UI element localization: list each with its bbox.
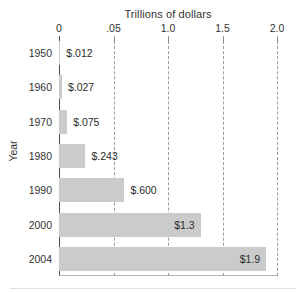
y-tick-label-1950: 1950 xyxy=(8,47,52,59)
y-tick-label-1960: 1960 xyxy=(8,81,52,93)
x-tick-label-0: 0 xyxy=(44,22,74,34)
x-tick-label-3: 1.5 xyxy=(208,22,238,34)
bar-value-label-1990: $.600 xyxy=(130,184,156,196)
bar-row: $.0121950 xyxy=(59,41,277,65)
bar-value-label-1960: $.027 xyxy=(68,81,94,93)
y-tick-label-1980: 1980 xyxy=(8,150,52,162)
y-tick-label-1990: 1990 xyxy=(8,184,52,196)
bar-1970[interactable] xyxy=(59,110,67,134)
bar-1950[interactable] xyxy=(59,41,60,65)
chart-title: Trillions of dollars xyxy=(59,8,277,20)
bar-1980[interactable] xyxy=(59,144,85,168)
gridline-2.0 xyxy=(277,36,278,276)
bar-1990[interactable] xyxy=(59,178,124,202)
bar-value-label-1970: $.075 xyxy=(73,116,99,128)
y-tick-label-1970: 1970 xyxy=(8,116,52,128)
bar-value-label-2000: $1.3 xyxy=(174,219,194,231)
y-tick-label-2000: 2000 xyxy=(8,219,52,231)
bar-row: $1.92004 xyxy=(59,247,277,271)
bar-value-label-2004: $1.9 xyxy=(240,253,260,265)
bottom-divider xyxy=(10,288,296,289)
x-tick-label-1: .05 xyxy=(99,22,129,34)
bar-row: $.2431980 xyxy=(59,144,277,168)
bar-row: $.6001990 xyxy=(59,178,277,202)
plot-area: $.0121950$.0271960$.0751970$.2431980$.60… xyxy=(59,36,277,276)
x-tick-label-4: 2.0 xyxy=(262,22,292,34)
bar-row: $1.32000 xyxy=(59,213,277,237)
bar-chart: Trillions of dollars Year 0.051.01.52.0 … xyxy=(0,0,306,292)
y-tick-label-2004: 2004 xyxy=(8,253,52,265)
bar-row: $.0271960 xyxy=(59,75,277,99)
bar-value-label-1980: $.243 xyxy=(91,150,117,162)
bar-1960[interactable] xyxy=(59,75,62,99)
bar-row: $.0751970 xyxy=(59,110,277,134)
x-tick-label-2: 1.0 xyxy=(153,22,183,34)
bar-2004[interactable] xyxy=(59,247,266,271)
bar-value-label-1950: $.012 xyxy=(66,47,92,59)
